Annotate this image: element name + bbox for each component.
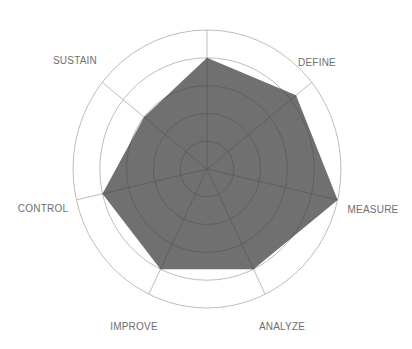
label-analyze: ANALYZE bbox=[259, 321, 305, 332]
label-control: CONTROL bbox=[18, 203, 68, 214]
radar-chart bbox=[0, 0, 412, 349]
label-improve: IMPROVE bbox=[110, 321, 158, 332]
label-measure: MEASURE bbox=[348, 204, 399, 215]
label-define: DEFINE bbox=[298, 57, 336, 68]
label-sustain: SUSTAIN bbox=[53, 55, 97, 66]
